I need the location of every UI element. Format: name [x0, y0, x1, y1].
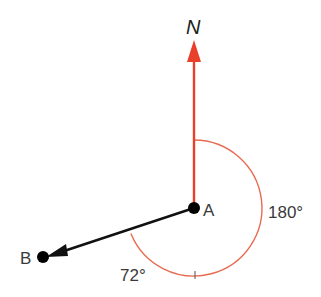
- north-arrow-icon: [187, 40, 201, 62]
- angle-small-label: 72°: [120, 266, 146, 285]
- bearing-diagram: N A B 180° 72°: [0, 0, 321, 297]
- point-b-label: B: [20, 249, 31, 268]
- angle-reflex-label: 180°: [268, 203, 303, 222]
- point-b-dot: [37, 251, 49, 263]
- bearing-line-a-to-b: [58, 208, 194, 253]
- north-label: N: [186, 16, 201, 38]
- point-a-label: A: [203, 201, 215, 220]
- bearing-arrow-icon: [46, 244, 68, 257]
- point-a-dot: [188, 202, 200, 214]
